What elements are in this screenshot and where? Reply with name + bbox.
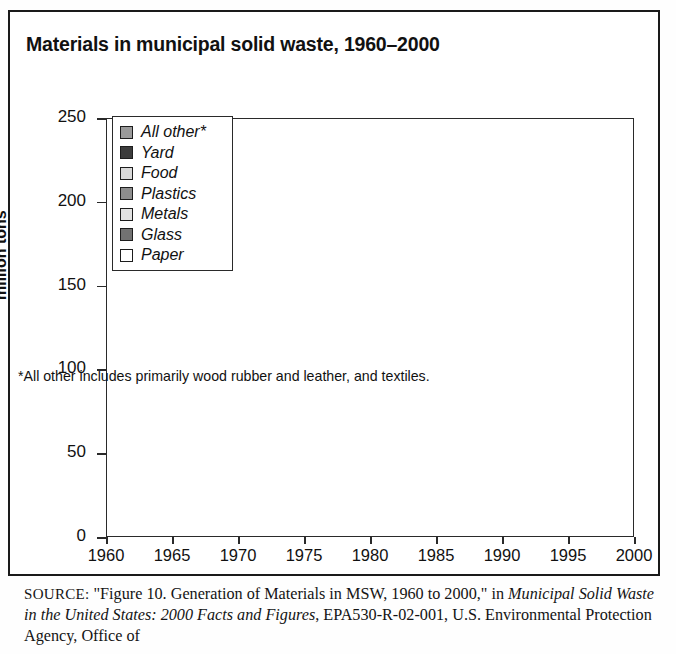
x-axis-tick-label: 1990 [472, 546, 532, 565]
y-axis-tick-mark [97, 369, 106, 371]
legend-item: Glass [120, 225, 226, 246]
legend-swatch-icon [120, 208, 133, 221]
legend-item: Paper [120, 245, 226, 266]
x-axis-tick-mark [106, 537, 108, 544]
source-note: SOURCE: "Figure 10. Generation of Materi… [24, 584, 656, 647]
legend-swatch-icon [120, 228, 133, 241]
legend-item: Yard [120, 143, 226, 164]
legend-swatch-icon [120, 167, 133, 180]
x-axis-tick-mark [238, 537, 240, 544]
y-axis-tick-label: 0 [40, 526, 86, 546]
x-axis-tick-mark [304, 537, 306, 544]
legend-swatch-icon [120, 249, 133, 262]
y-axis-tick-mark [97, 286, 106, 288]
y-axis-tick-mark [97, 453, 106, 455]
y-axis-tick-mark [97, 537, 106, 539]
x-axis-tick-label: 1985 [406, 546, 466, 565]
x-axis-tick-label: 1975 [274, 546, 334, 565]
y-axis-label: million tons [0, 210, 10, 300]
legend-item: Metals [120, 204, 226, 225]
legend-item: Plastics [120, 184, 226, 205]
page-title: Materials in municipal solid waste, 1960… [26, 33, 440, 56]
x-axis-tick-label: 1970 [208, 546, 268, 565]
y-axis-tick-label: 100 [40, 358, 86, 378]
x-axis-tick-label: 2000 [604, 546, 664, 565]
legend-item-label: Glass [141, 227, 182, 243]
x-axis-tick-label: 1965 [142, 546, 202, 565]
x-axis-tick-mark [172, 537, 174, 544]
y-axis-tick-label: 250 [40, 107, 86, 127]
y-axis-tick-label: 150 [40, 275, 86, 295]
legend-swatch-icon [120, 126, 133, 139]
legend-item-label: Paper [141, 247, 184, 263]
y-axis-tick-mark [97, 202, 106, 204]
legend-item-label: Food [141, 165, 177, 181]
legend-item-label: Yard [141, 145, 174, 161]
legend-item: All other* [120, 122, 226, 143]
legend-swatch-icon [120, 146, 133, 159]
x-axis-tick-mark [502, 537, 504, 544]
x-axis-tick-mark [436, 537, 438, 544]
source-quoted: "Figure 10. Generation of Materials in M… [94, 585, 505, 603]
x-axis-tick-label: 1980 [340, 546, 400, 565]
x-axis-tick-mark [370, 537, 372, 544]
y-axis-tick-label: 200 [40, 191, 86, 211]
legend-item-label: Plastics [141, 186, 196, 202]
y-axis-tick-label: 50 [40, 442, 86, 462]
x-axis-tick-label: 1995 [538, 546, 598, 565]
x-axis-tick-mark [568, 537, 570, 544]
x-axis-tick-mark [634, 537, 636, 544]
x-axis-tick-label: 1960 [76, 546, 136, 565]
legend-item: Food [120, 163, 226, 184]
legend-item-label: Metals [141, 206, 188, 222]
legend: All other*YardFoodPlasticsMetalsGlassPap… [112, 116, 233, 271]
source-prefix: SOURCE: [24, 586, 89, 602]
y-axis-tick-mark [97, 118, 106, 120]
legend-swatch-icon [120, 187, 133, 200]
legend-item-label: All other* [141, 124, 206, 140]
figure-page: Materials in municipal solid waste, 1960… [0, 0, 676, 654]
